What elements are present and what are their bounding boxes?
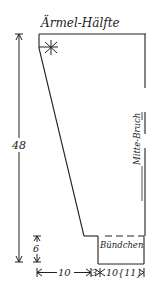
cuff-height-label: 6 — [33, 243, 39, 254]
bottom-middle-label: 3 — [91, 267, 97, 278]
svg-text:Mitte-Bruch: Mitte-Bruch — [132, 113, 142, 166]
bottom-left-label: 10 — [58, 267, 71, 278]
height-label: 48 — [11, 139, 26, 152]
sleeve-pattern-diagram: Ärmel-Hälfte Mitte-Bruch Bündchen — [0, 0, 161, 293]
sleeve-outline — [39, 34, 146, 236]
pattern-title: Ärmel-Hälfte — [40, 14, 120, 30]
asterisk-mark-icon — [39, 40, 58, 55]
bottom-right-label: 10{11} — [106, 267, 142, 278]
cuff-label: Bündchen — [99, 240, 143, 250]
fold-line-label: Mitte-Bruch — [132, 112, 142, 201]
